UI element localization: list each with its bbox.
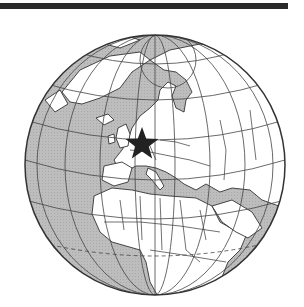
iberia [102, 162, 132, 186]
madagascar [240, 266, 248, 288]
great-britain [116, 124, 130, 148]
ireland [108, 134, 115, 144]
globe-map [0, 0, 304, 307]
